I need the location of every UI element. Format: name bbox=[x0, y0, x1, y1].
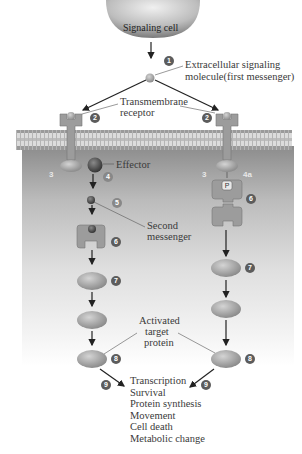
outcome-item: Movement bbox=[130, 410, 205, 422]
step-badge-6-right: 6 bbox=[246, 194, 256, 204]
step-label-3-right: 3 bbox=[202, 170, 206, 179]
step-label-3-left: 3 bbox=[49, 170, 53, 179]
signaling-diagram: Signaling cell Extracellular signaling m… bbox=[0, 0, 302, 454]
cellular-outcomes-list: Transcription Survival Protein synthesis… bbox=[130, 375, 205, 444]
step-badge-9-left: 9 bbox=[101, 380, 111, 390]
outcome-item: Survival bbox=[130, 387, 205, 399]
target-protein-label-line3: protein bbox=[144, 337, 174, 349]
outcome-item: Metabolic change bbox=[130, 433, 205, 445]
step-badge-2-left: 2 bbox=[90, 113, 100, 123]
step-badge-8-right: 8 bbox=[245, 354, 255, 364]
step-badge-4: 4 bbox=[103, 172, 113, 182]
first-messenger-label-line2: molecule(first messenger) bbox=[185, 71, 294, 83]
left-target-protein bbox=[77, 350, 107, 368]
second-messenger-label-line1: Second bbox=[147, 220, 178, 232]
phosphate-label: P bbox=[222, 181, 232, 190]
step-badge-2-right: 2 bbox=[202, 113, 212, 123]
step-badge-5: 5 bbox=[112, 198, 122, 208]
second-messenger bbox=[87, 196, 95, 204]
step-badge-8-left: 8 bbox=[111, 354, 121, 364]
step-badge-6-left: 6 bbox=[111, 237, 121, 247]
outcome-item: Transcription bbox=[130, 375, 205, 387]
step-badge-7-left: 7 bbox=[111, 276, 121, 286]
effector bbox=[88, 158, 103, 173]
right-protein-intermediate bbox=[211, 300, 241, 318]
target-protein-label-line2: target bbox=[145, 326, 169, 338]
first-messenger-molecule bbox=[146, 74, 155, 83]
target-protein-label-line1: Activated bbox=[139, 315, 180, 327]
receptor-label-line2: receptor bbox=[120, 107, 154, 119]
step-badge-7-right: 7 bbox=[245, 263, 255, 273]
left-protein-7 bbox=[77, 272, 107, 290]
effector-label: Effector bbox=[116, 159, 150, 171]
outcome-item: Protein synthesis bbox=[130, 398, 205, 410]
right-target-protein bbox=[211, 350, 241, 368]
first-messenger-label-line1: Extracellular signaling bbox=[185, 59, 280, 71]
step-label-4a: 4a bbox=[243, 170, 252, 179]
receptor-label-line1: Transmembrane bbox=[120, 96, 188, 108]
right-protein-7 bbox=[211, 259, 241, 277]
left-kinase bbox=[77, 225, 105, 248]
step-badge-1: 1 bbox=[164, 56, 174, 66]
outcome-item: Cell death bbox=[130, 421, 205, 433]
left-protein-intermediate bbox=[77, 311, 107, 329]
second-messenger-label-line2: messenger bbox=[147, 231, 191, 243]
signaling-cell-label: Signaling cell bbox=[123, 22, 178, 34]
